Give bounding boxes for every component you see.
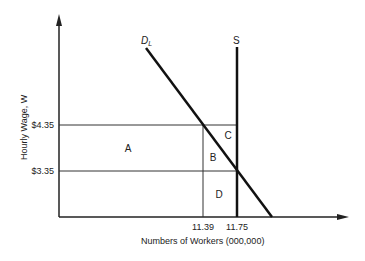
x-axis-label: Numbers of Workers (000,000) bbox=[141, 236, 264, 246]
x-axis-arrow-icon bbox=[337, 214, 349, 220]
y-tick-high: $4.35 bbox=[31, 120, 54, 130]
demand-label: DL bbox=[141, 35, 152, 47]
supply-label: S bbox=[233, 35, 240, 46]
demand-curve bbox=[146, 48, 272, 217]
region-c-label: C bbox=[224, 130, 231, 141]
x-tick-1175: 11.75 bbox=[226, 222, 248, 232]
region-a-label: A bbox=[125, 143, 132, 154]
y-tick-low: $3.35 bbox=[31, 166, 54, 176]
y-axis-label: Hourly Wage, W bbox=[19, 94, 29, 160]
y-axis-arrow-icon bbox=[56, 14, 62, 26]
region-d-label: D bbox=[215, 189, 222, 200]
region-b-label: B bbox=[210, 152, 217, 163]
x-tick-1139: 11.39 bbox=[192, 222, 214, 232]
chart: Hourly Wage, W $4.35 $3.35 11.39 11.75 N… bbox=[0, 0, 365, 261]
